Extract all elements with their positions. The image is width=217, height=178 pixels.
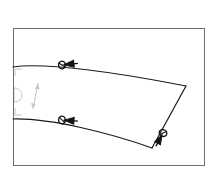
- drawing-canvas: [0, 0, 217, 178]
- technical-drawing: [0, 0, 217, 178]
